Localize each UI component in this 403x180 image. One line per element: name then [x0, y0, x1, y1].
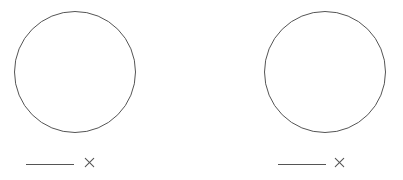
circle-outline — [264, 11, 386, 133]
x-mark-icon — [334, 157, 345, 168]
left-panel — [0, 0, 201, 180]
scale-annotation — [26, 154, 95, 174]
scale-bar — [278, 164, 326, 165]
x-mark-icon — [84, 157, 95, 168]
scale-bar — [26, 164, 74, 165]
circle-outline — [14, 11, 136, 133]
right-panel — [202, 0, 403, 180]
figure-canvas — [0, 0, 403, 180]
scale-annotation — [278, 154, 345, 174]
